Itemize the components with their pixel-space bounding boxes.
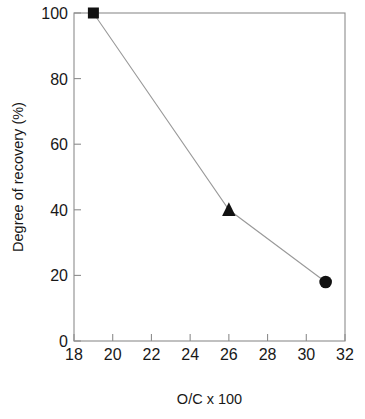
series-line-degree-of-recovery bbox=[93, 13, 325, 282]
y-axis-title: Degree of recovery (%) bbox=[10, 102, 26, 252]
y-axis-tick-labels: 0 20 40 60 80 100 bbox=[41, 5, 68, 350]
marker-triangle-point-2 bbox=[222, 202, 236, 216]
y-tick-label-20: 20 bbox=[50, 267, 68, 284]
x-tick-label-32: 32 bbox=[336, 346, 354, 363]
x-tick-label-24: 24 bbox=[181, 346, 199, 363]
x-tick-label-18: 18 bbox=[65, 346, 83, 363]
x-tick-label-28: 28 bbox=[259, 346, 277, 363]
x-tick-label-26: 26 bbox=[220, 346, 238, 363]
y-tick-label-80: 80 bbox=[50, 71, 68, 88]
y-tick-label-60: 60 bbox=[50, 136, 68, 153]
marker-square-point-1 bbox=[88, 8, 99, 19]
marker-circle-point-3 bbox=[319, 276, 332, 289]
x-axis-tick-labels: 18 20 22 24 26 28 30 32 bbox=[65, 346, 354, 363]
chart-figure: 0 20 40 60 80 100 18 20 22 24 26 28 30 bbox=[0, 0, 365, 419]
y-axis-ticks bbox=[74, 13, 81, 341]
y-tick-label-100: 100 bbox=[41, 5, 68, 22]
x-tick-label-22: 22 bbox=[143, 346, 161, 363]
x-axis-ticks bbox=[74, 334, 345, 341]
series-markers bbox=[88, 8, 332, 289]
x-axis-title: O/C x 100 bbox=[177, 391, 242, 407]
line-chart: 0 20 40 60 80 100 18 20 22 24 26 28 30 bbox=[0, 0, 365, 419]
plot-frame bbox=[74, 13, 345, 341]
y-tick-label-40: 40 bbox=[50, 202, 68, 219]
x-tick-label-30: 30 bbox=[297, 346, 315, 363]
x-tick-label-20: 20 bbox=[104, 346, 122, 363]
